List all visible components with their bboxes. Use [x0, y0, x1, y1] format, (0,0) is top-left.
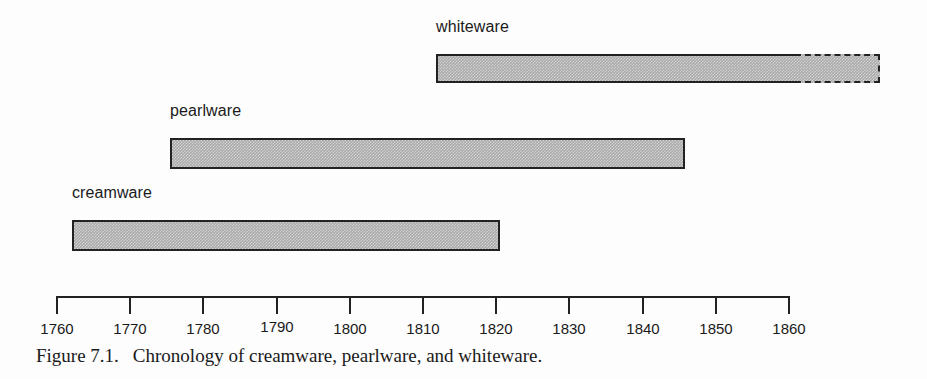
bar-pearlware — [170, 138, 685, 169]
axis-tick-label-1800: 1800 — [333, 320, 366, 337]
axis-tick-label-1840: 1840 — [626, 320, 659, 337]
axis-tick-1800 — [349, 296, 351, 314]
axis-tick-1770 — [129, 296, 131, 314]
axis-tick-1820 — [495, 296, 497, 314]
bar-label-pearlware: pearlware — [170, 102, 241, 120]
axis-tick-label-1810: 1810 — [406, 320, 439, 337]
figure-caption-number: Figure 7.1. — [36, 345, 119, 366]
axis-tick-1850 — [715, 296, 717, 314]
bar-whiteware-dashed-extension — [795, 54, 880, 83]
axis-tick-label-1830: 1830 — [552, 320, 585, 337]
axis-tick-1860 — [788, 296, 790, 314]
axis-tick-1830 — [568, 296, 570, 314]
figure-chronology-chart: whiteware pearlware creamware 1760 1770 … — [0, 0, 927, 379]
axis-tick-label-1790: 1790 — [260, 318, 293, 335]
figure-caption: Figure 7.1.Chronology of creamware, pear… — [36, 345, 542, 367]
axis-tick-label-1770: 1770 — [113, 320, 146, 337]
axis-tick-label-1820: 1820 — [479, 320, 512, 337]
figure-caption-text: Chronology of creamware, pearlware, and … — [133, 345, 542, 366]
axis-tick-1840 — [642, 296, 644, 314]
bar-label-creamware: creamware — [72, 184, 152, 202]
bar-label-whiteware: whiteware — [436, 18, 509, 36]
axis-tick-1760 — [56, 296, 58, 314]
axis-tick-label-1760: 1760 — [40, 320, 73, 337]
axis-tick-label-1850: 1850 — [699, 320, 732, 337]
axis-tick-1790 — [276, 296, 278, 314]
axis-tick-label-1780: 1780 — [186, 320, 219, 337]
bar-creamware — [72, 220, 500, 251]
bar-whiteware-solid — [436, 54, 797, 83]
axis-tick-1810 — [422, 296, 424, 314]
axis-tick-label-1860: 1860 — [772, 320, 805, 337]
axis-tick-1780 — [202, 296, 204, 314]
